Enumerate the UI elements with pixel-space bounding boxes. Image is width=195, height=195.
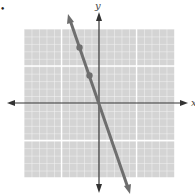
point-neg2-6: [76, 44, 82, 50]
coordinate-plane: [0, 0, 195, 195]
y-axis-label: y: [95, 0, 101, 11]
x-axis-label: x: [191, 97, 195, 108]
point-neg1-3: [86, 72, 92, 78]
line-arrow-down-icon: [124, 184, 131, 194]
line-arrow-up-icon: [67, 14, 74, 24]
